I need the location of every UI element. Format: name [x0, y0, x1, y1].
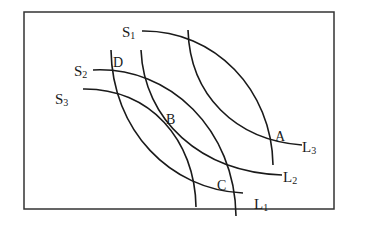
diagram-canvas: S1 S2 S3 L1 L2 L3 A B C D — [0, 0, 366, 245]
label-l1: L1 — [254, 196, 268, 213]
curve-s3 — [83, 89, 196, 207]
label-l3: L3 — [302, 139, 316, 156]
curve-l2 — [141, 50, 282, 175]
curve-s2 — [93, 70, 236, 216]
point-a: A — [275, 129, 286, 144]
point-b: B — [166, 112, 175, 127]
label-s1: S1 — [122, 24, 135, 41]
point-c: C — [217, 178, 226, 193]
label-s3: S3 — [55, 91, 68, 108]
label-l2: L2 — [283, 169, 297, 186]
point-d: D — [113, 55, 123, 70]
curve-l1 — [111, 50, 243, 193]
label-s2: S2 — [74, 63, 87, 80]
curve-s1 — [142, 31, 273, 165]
